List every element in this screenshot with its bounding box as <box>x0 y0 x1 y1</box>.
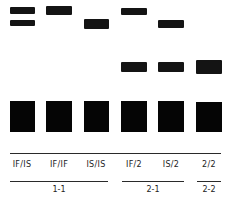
lane-label-1: IF/IS <box>2 160 42 169</box>
lane-label-2: IF/IF <box>39 160 79 169</box>
top-divider <box>10 153 221 154</box>
group-label-2-1: 2-1 <box>133 185 173 194</box>
block-lane3 <box>84 101 109 132</box>
band-lane4-upper <box>121 8 147 15</box>
lane-label-5: IS/2 <box>151 160 191 169</box>
block-lane2 <box>46 101 72 132</box>
lane-label-6: 2/2 <box>189 160 229 169</box>
block-lane4 <box>121 101 147 132</box>
band-lane5-lower <box>158 62 184 72</box>
group-line-2-1 <box>122 181 184 182</box>
block-lane1 <box>10 101 35 132</box>
band-lane3-middle <box>84 19 109 29</box>
lane-label-3: IS/IS <box>76 160 116 169</box>
group-label-2-2: 2-2 <box>189 185 229 194</box>
group-label-1-1: 1-1 <box>39 185 79 194</box>
band-lane5-middle <box>158 20 184 28</box>
band-lane4-lower <box>121 62 147 72</box>
lane-label-4: IF/2 <box>114 160 154 169</box>
block-lane6 <box>196 102 222 132</box>
block-lane5 <box>158 101 184 132</box>
band-lane2-upper <box>46 6 72 15</box>
group-line-1-1 <box>10 181 108 182</box>
band-lane1-upper <box>10 7 35 14</box>
band-lane1-lower <box>10 20 35 26</box>
group-line-2-2 <box>197 181 221 182</box>
band-lane6-lower <box>196 60 222 74</box>
